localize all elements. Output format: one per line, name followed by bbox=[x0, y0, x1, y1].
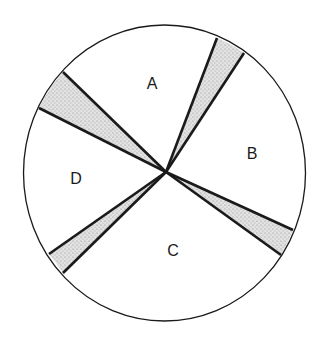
sector-label-c: C bbox=[167, 242, 179, 259]
wedge-bottom-left bbox=[49, 172, 166, 273]
sector-label-b: B bbox=[247, 145, 258, 162]
wedge-bottom-left-edge-2 bbox=[63, 172, 166, 273]
sector-label-d: D bbox=[70, 170, 82, 187]
wedge-right-edge-2 bbox=[166, 172, 281, 255]
pie-diagram: ABCD bbox=[0, 0, 324, 345]
wedge-bottom-left-edge-1 bbox=[49, 172, 166, 254]
wedge-right-edge-1 bbox=[166, 172, 293, 230]
sector-label-a: A bbox=[147, 75, 158, 92]
